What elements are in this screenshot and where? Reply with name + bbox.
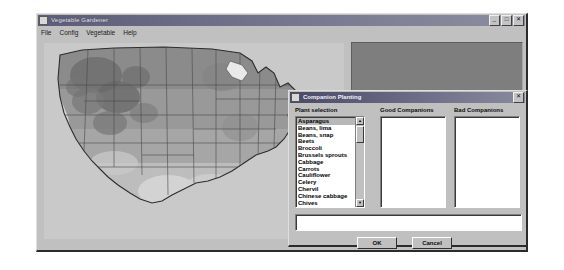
list-item[interactable]: Cabbage (297, 159, 355, 166)
dialog-titlebar[interactable]: Companion Planting ✕ (290, 92, 525, 103)
close-button[interactable]: ✕ (513, 15, 524, 26)
minimize-button[interactable]: _ (489, 15, 500, 26)
list-item[interactable]: Brussels sprouts (297, 152, 355, 159)
ok-button[interactable]: OK (357, 237, 397, 249)
dialog-close-button[interactable]: ✕ (513, 92, 524, 103)
scroll-up-arrow-icon[interactable]: ▲ (356, 117, 364, 125)
list-item[interactable]: Asparagus (297, 118, 355, 125)
list-item[interactable]: Broccoli (297, 145, 355, 152)
window-icon (291, 93, 300, 102)
list-item[interactable]: Cauliflower (297, 172, 355, 179)
scrollbar-thumb[interactable] (356, 126, 364, 143)
plant-selection-label: Plant selection (295, 107, 337, 114)
list-item[interactable]: Chinese cabbage (297, 193, 355, 200)
list-item[interactable]: Chervil (297, 186, 355, 193)
plant-selection-listbox[interactable]: Asparagus Beans, lima Beans, snap Beets … (295, 116, 365, 208)
window-icon (39, 16, 48, 25)
dialog-body: Plant selection Asparagus Beans, lima Be… (290, 104, 525, 244)
menu-item-file[interactable]: File (41, 29, 51, 37)
list-item[interactable]: Celery (297, 179, 355, 186)
notes-input[interactable] (295, 214, 522, 231)
list-item[interactable]: Beans, snap (297, 132, 355, 139)
window-title: Vegetable Gardener (51, 17, 489, 24)
cancel-button[interactable]: Cancel (412, 237, 452, 249)
bad-companions-listbox[interactable] (454, 116, 520, 208)
list-item[interactable]: Chives (297, 200, 355, 207)
window-controls: _ □ ✕ (489, 15, 524, 26)
menu-item-vegetable[interactable]: Vegetable (86, 29, 115, 37)
dialog-title: Companion Planting (303, 94, 513, 101)
menu-item-config[interactable]: Config (59, 29, 78, 37)
bad-companions-label: Bad Companions (454, 107, 503, 114)
maximize-button[interactable]: □ (501, 15, 512, 26)
window-titlebar[interactable]: Vegetable Gardener _ □ ✕ (38, 15, 525, 26)
scroll-down-arrow-icon[interactable]: ▼ (356, 199, 364, 207)
list-item[interactable]: Carrots (297, 166, 355, 173)
menu-item-help[interactable]: Help (123, 29, 136, 37)
plant-list-items[interactable]: Asparagus Beans, lima Beans, snap Beets … (296, 117, 355, 207)
menu-bar: File Config Vegetable Help (38, 27, 525, 38)
plant-list-scrollbar[interactable]: ▲ ▼ (355, 117, 364, 207)
list-item[interactable]: Beans, lima (297, 125, 355, 132)
good-companions-label: Good Companions (380, 107, 434, 114)
companion-planting-dialog: Companion Planting ✕ Plant selection Asp… (288, 90, 528, 247)
good-companions-listbox[interactable] (380, 116, 446, 208)
list-item[interactable]: Beets (297, 138, 355, 145)
